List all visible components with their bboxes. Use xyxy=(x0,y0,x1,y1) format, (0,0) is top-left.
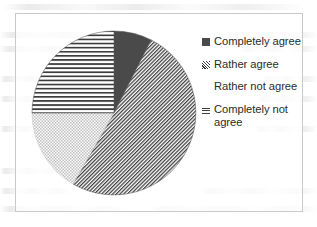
pie-slice-completely-not-agree[interactable] xyxy=(32,31,114,113)
legend-item-rather-not-agree[interactable]: Rather not agree xyxy=(202,80,302,94)
legend-item-label: Rather not agree xyxy=(214,80,297,94)
chart-frame: Completely agree Rather agree Rather not… xyxy=(15,13,303,212)
pie-chart[interactable] xyxy=(16,14,201,211)
legend-item-label: Completely agree xyxy=(214,35,301,49)
dotted-square-icon xyxy=(202,83,210,91)
diagonal-hatch-square-icon xyxy=(202,61,210,69)
legend-item-completely-not-agree[interactable]: Completely not agree xyxy=(202,103,302,130)
horizontal-lines-square-icon xyxy=(202,106,210,114)
legend-item-label: Rather agree xyxy=(214,58,279,72)
legend-item-completely-agree[interactable]: Completely agree xyxy=(202,35,302,49)
pie-chart-plot-area xyxy=(16,14,201,211)
chart-legend: Completely agree Rather agree Rather not… xyxy=(202,35,302,139)
solid-square-icon xyxy=(202,38,210,46)
legend-item-label: Completely not agree xyxy=(214,103,302,130)
legend-item-rather-agree[interactable]: Rather agree xyxy=(202,58,302,72)
